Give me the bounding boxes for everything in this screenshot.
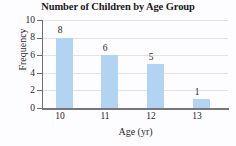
y-tick-label: 8 <box>13 33 35 43</box>
bar-value-age-12: 5 <box>138 53 164 63</box>
bar-age-10 <box>56 38 73 108</box>
bar-age-13 <box>193 99 210 108</box>
y-axis-tick-labels: 10 8 6 4 2 0 <box>11 0 35 146</box>
bar-age-12 <box>147 64 164 108</box>
x-tick-label-13: 13 <box>184 112 210 122</box>
bar-age-11 <box>101 55 118 108</box>
bar-value-age-13: 1 <box>184 88 210 98</box>
y-tick-label: 0 <box>13 104 35 114</box>
gridline <box>43 20 228 21</box>
y-tick-label: 4 <box>13 69 35 79</box>
bar-value-age-11: 6 <box>92 44 118 54</box>
y-tick-label: 6 <box>13 51 35 61</box>
bar-value-age-10: 8 <box>47 26 73 36</box>
bar-chart-figure: Number of Children by Age Group Frequenc… <box>0 0 236 146</box>
y-tick-label: 10 <box>13 16 35 26</box>
x-axis-title: Age (yr) <box>43 126 228 137</box>
y-tick-label: 2 <box>13 86 35 96</box>
x-tick-label-10: 10 <box>47 112 73 122</box>
x-axis-line <box>42 108 229 110</box>
x-tick-label-12: 12 <box>138 112 164 122</box>
chart-title: Number of Children by Age Group <box>0 1 236 12</box>
x-tick-label-11: 11 <box>92 112 118 122</box>
